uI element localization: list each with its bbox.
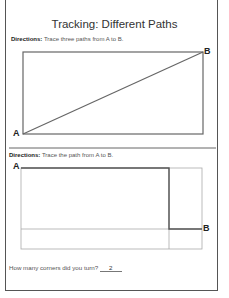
section1-start-label: A (13, 128, 20, 138)
section2-end-label: B (203, 223, 210, 233)
section2-directions: Directions: Trace the path from A to B. (9, 152, 113, 158)
answer-field[interactable]: 2 (100, 264, 122, 272)
directions-label: Directions: (9, 152, 40, 158)
question: How many corners did you turn? 2 (9, 264, 122, 272)
question-text: How many corners did you turn? (9, 264, 98, 271)
section2-start-label: A (13, 161, 20, 171)
directions-text: Trace the path from A to B. (42, 152, 113, 158)
paths-diagram (0, 0, 229, 298)
section1-end-label: B (204, 46, 211, 56)
